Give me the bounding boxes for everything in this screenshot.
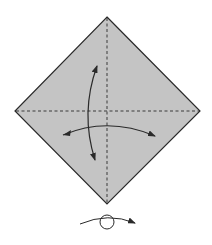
turn-over-arrow <box>80 218 135 224</box>
turn-over-circle <box>100 215 114 229</box>
turn-over-icon <box>80 215 135 229</box>
origami-diagram <box>0 0 212 245</box>
